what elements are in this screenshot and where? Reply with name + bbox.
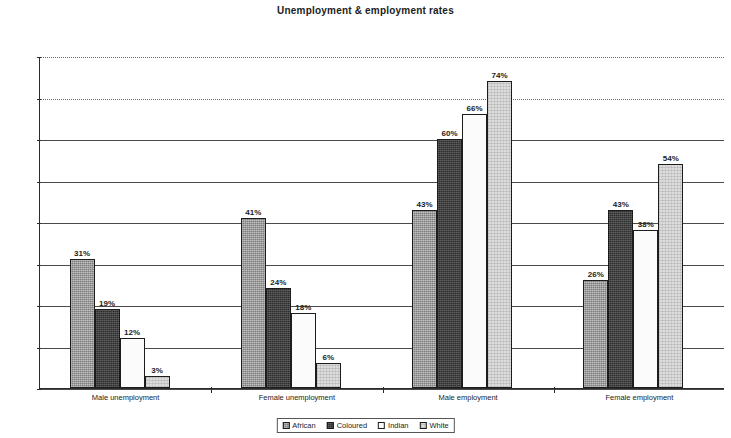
bar-value-label: 74% xyxy=(492,71,508,80)
bar-slot: 26% xyxy=(583,57,608,388)
bar-slot: 66% xyxy=(462,57,487,388)
y-axis-tick-mark xyxy=(37,182,41,183)
x-axis-category-label: Female unemployment xyxy=(211,393,382,402)
y-axis-tick-mark xyxy=(37,265,41,266)
legend-label: Coloured xyxy=(337,421,367,430)
bar-value-label: 38% xyxy=(638,220,654,229)
bar-value-label: 12% xyxy=(124,328,140,337)
legend-swatch-icon xyxy=(378,422,385,429)
bar-white-female-unemployment: 6% xyxy=(316,363,341,388)
y-axis-tick-mark xyxy=(37,348,41,349)
bar-indian-female-unemployment: 18% xyxy=(291,313,316,388)
chart-legend: AfricanColouredIndianWhite xyxy=(276,418,454,433)
bar-white-female-employment: 54% xyxy=(658,164,683,388)
bar-slot: 38% xyxy=(633,57,658,388)
legend-swatch-icon xyxy=(282,422,289,429)
y-axis-tick-mark xyxy=(37,306,41,307)
bar-value-label: 41% xyxy=(245,208,261,217)
bar-slot: 12% xyxy=(120,57,145,388)
bar-value-label: 66% xyxy=(467,104,483,113)
bar-value-label: 18% xyxy=(295,303,311,312)
bar-indian-female-employment: 38% xyxy=(633,230,658,388)
legend-label: African xyxy=(292,421,315,430)
bar-indian-male-employment: 66% xyxy=(462,114,487,388)
bar-value-label: 24% xyxy=(270,278,286,287)
bar-african-female-employment: 26% xyxy=(583,280,608,388)
legend-swatch-icon xyxy=(327,422,334,429)
bar-slot: 74% xyxy=(487,57,512,388)
bar-group: 26%43%38%54% xyxy=(583,57,683,388)
legend-item-white[interactable]: White xyxy=(420,421,449,430)
bar-african-female-unemployment: 41% xyxy=(241,218,266,388)
plot-area: 0%10%20%30%40%50%60%70%80%31%19%12%3%Mal… xyxy=(39,57,724,389)
bar-slot: 60% xyxy=(437,57,462,388)
bar-value-label: 3% xyxy=(151,366,163,375)
bar-slot: 6% xyxy=(316,57,341,388)
bar-white-male-employment: 74% xyxy=(487,81,512,388)
legend-item-african[interactable]: African xyxy=(282,421,315,430)
bar-coloured-male-unemployment: 19% xyxy=(95,309,120,388)
bar-slot: 54% xyxy=(658,57,683,388)
bar-slot: 3% xyxy=(145,57,170,388)
bar-value-label: 31% xyxy=(74,249,90,258)
y-axis-tick-mark xyxy=(37,99,41,100)
bar-value-label: 43% xyxy=(613,200,629,209)
legend-item-coloured[interactable]: Coloured xyxy=(327,421,367,430)
bar-slot: 24% xyxy=(266,57,291,388)
x-axis-category-label: Female employment xyxy=(554,393,725,402)
bar-group: 41%24%18%6% xyxy=(241,57,341,388)
bar-value-label: 19% xyxy=(99,299,115,308)
bar-indian-male-unemployment: 12% xyxy=(120,338,145,388)
bar-group: 43%60%66%74% xyxy=(412,57,512,388)
bar-value-label: 60% xyxy=(442,129,458,138)
y-axis-tick-mark xyxy=(37,140,41,141)
bar-slot: 18% xyxy=(291,57,316,388)
bar-slot: 43% xyxy=(608,57,633,388)
y-axis-tick-mark xyxy=(37,57,41,58)
x-axis-category-label: Male unemployment xyxy=(40,393,211,402)
legend-swatch-icon xyxy=(420,422,427,429)
legend-label: Indian xyxy=(388,421,408,430)
y-axis-tick-mark xyxy=(37,389,41,390)
bar-chart: Unemployment & employment rates 0%10%20%… xyxy=(0,0,731,438)
bar-group: 31%19%12%3% xyxy=(70,57,170,388)
bar-value-label: 54% xyxy=(663,154,679,163)
bar-african-male-employment: 43% xyxy=(412,210,437,388)
chart-title: Unemployment & employment rates xyxy=(0,5,731,16)
legend-item-indian[interactable]: Indian xyxy=(378,421,408,430)
bar-coloured-female-unemployment: 24% xyxy=(266,288,291,388)
y-axis-tick-mark xyxy=(37,223,41,224)
bar-value-label: 43% xyxy=(417,200,433,209)
bar-slot: 41% xyxy=(241,57,266,388)
bar-slot: 31% xyxy=(70,57,95,388)
legend-label: White xyxy=(430,421,449,430)
bar-coloured-male-employment: 60% xyxy=(437,139,462,388)
x-axis-category-label: Male employment xyxy=(383,393,554,402)
bar-value-label: 26% xyxy=(588,270,604,279)
bar-african-male-unemployment: 31% xyxy=(70,259,95,388)
bar-value-label: 6% xyxy=(323,353,335,362)
bar-slot: 19% xyxy=(95,57,120,388)
bar-coloured-female-employment: 43% xyxy=(608,210,633,388)
bar-white-male-unemployment: 3% xyxy=(145,376,170,388)
bar-slot: 43% xyxy=(412,57,437,388)
